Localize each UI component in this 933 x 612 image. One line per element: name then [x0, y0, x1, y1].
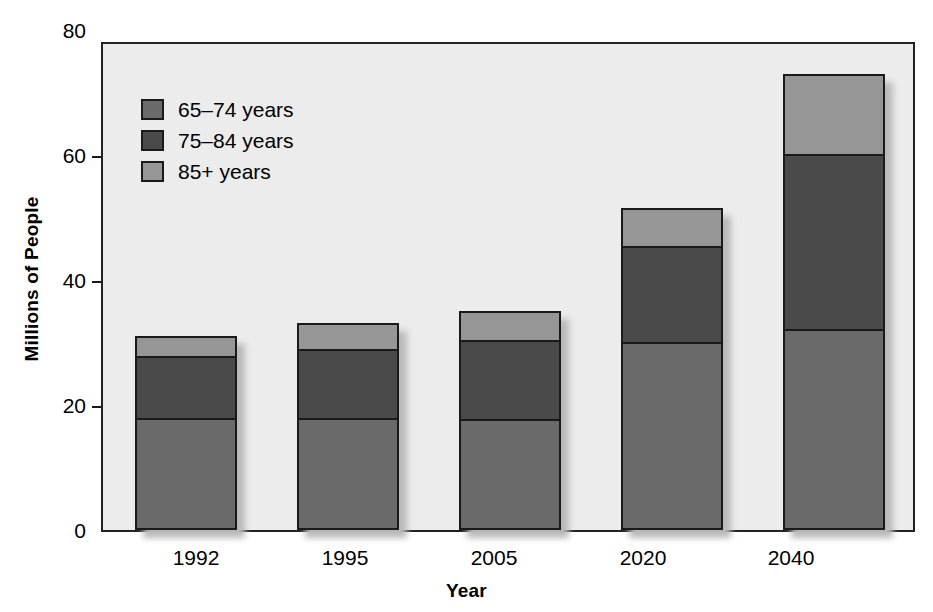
- bar-segment[interactable]: [623, 210, 721, 246]
- y-tick-label-20: 20: [40, 395, 86, 416]
- bar-segment[interactable]: [299, 349, 397, 418]
- bar-group-2005: [459, 311, 561, 530]
- x-tick-label-1995: 1995: [275, 546, 415, 570]
- legend-label-85-plus: 85+ years: [178, 161, 271, 182]
- y-tick-label-0: 0: [40, 520, 86, 541]
- plot-area: 65–74 years 75–84 years 85+ years: [101, 42, 915, 532]
- bar-segment[interactable]: [623, 342, 721, 528]
- x-axis-title: Year: [0, 580, 933, 602]
- y-tick-label-60: 60: [40, 145, 86, 166]
- x-tick-label-2020: 2020: [573, 546, 713, 570]
- bar-segment[interactable]: [785, 329, 883, 528]
- bar-group-2020: [621, 208, 723, 530]
- bar-segment[interactable]: [137, 338, 235, 356]
- bar-segment[interactable]: [785, 76, 883, 154]
- bar-segment[interactable]: [785, 154, 883, 329]
- bar-segment[interactable]: [137, 356, 235, 419]
- y-tick-label-40: 40: [40, 270, 86, 291]
- legend-item-65-74: 65–74 years: [141, 94, 294, 125]
- bar-stack-2005[interactable]: [459, 311, 561, 530]
- y-axis-tick-labels: 80 60 40 20 0: [36, 0, 86, 612]
- legend-swatch-85-plus-icon: [141, 161, 164, 182]
- legend-item-75-84: 75–84 years: [141, 125, 294, 156]
- bar-group-2040: [783, 74, 885, 530]
- y-tick-label-80: 80: [40, 20, 86, 41]
- bar-stack-2020[interactable]: [621, 208, 723, 530]
- bar-group-1992: [135, 336, 237, 530]
- bar-segment[interactable]: [137, 418, 235, 528]
- bar-segment[interactable]: [623, 246, 721, 342]
- bar-segment[interactable]: [461, 313, 559, 340]
- legend-swatch-65-74-icon: [141, 99, 164, 120]
- legend: 65–74 years 75–84 years 85+ years: [141, 94, 294, 187]
- legend-item-85-plus: 85+ years: [141, 156, 294, 187]
- bar-stack-1995[interactable]: [297, 323, 399, 530]
- bar-segment[interactable]: [299, 325, 397, 349]
- legend-label-75-84: 75–84 years: [178, 130, 294, 151]
- bar-segment[interactable]: [299, 418, 397, 528]
- x-tick-label-2040: 2040: [721, 546, 861, 570]
- bar-segment[interactable]: [461, 419, 559, 528]
- legend-swatch-75-84-icon: [141, 130, 164, 151]
- bar-group-1995: [297, 323, 399, 530]
- bar-stack-2040[interactable]: [783, 74, 885, 530]
- x-tick-label-1992: 1992: [126, 546, 266, 570]
- bar-segment[interactable]: [461, 340, 559, 419]
- x-tick-label-2005: 2005: [424, 546, 564, 570]
- stacked-bar-chart: Millions of People 80 60 40 20 0 65–74 y…: [0, 0, 933, 612]
- bar-stack-1992[interactable]: [135, 336, 237, 530]
- legend-label-65-74: 65–74 years: [178, 99, 294, 120]
